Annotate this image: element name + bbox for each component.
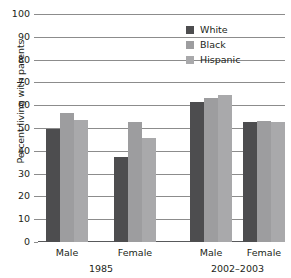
bar-black-female-1 [128,122,142,242]
bar-hispanic-male-0 [74,120,88,242]
bar-hispanic-female-1 [142,138,156,242]
y-axis-tick-mark [34,174,38,175]
plot-area [38,14,285,242]
bar-hispanic-female-3 [271,122,285,242]
bar-white-female-1 [114,157,128,243]
y-axis-tick-label: 90 [0,32,30,42]
y-axis-tick-label: 100 [0,9,30,19]
legend-label: White [200,25,228,35]
y-axis-tick-label: 80 [0,55,30,65]
chart-legend: WhiteBlackHispanic [186,22,240,67]
bar-white-male-2 [190,102,204,242]
y-axis-tick-mark [34,37,38,38]
y-axis-tick-mark [34,105,38,106]
y-axis-tick-mark [34,151,38,152]
y-axis-tick-mark [34,196,38,197]
legend-swatch-icon-white [186,26,194,34]
y-axis-tick-label: 10 [0,214,30,224]
y-axis-tick-mark [34,82,38,83]
y-axis-tick-label: 30 [0,169,30,179]
bar-chart: Percent living with parents 010203040506… [0,0,291,278]
bar-hispanic-male-2 [218,95,232,242]
bar-white-male-0 [46,129,60,242]
y-axis-tick-mark [34,242,38,243]
x-axis-period-label-0: 1985 [56,263,146,274]
x-axis-label-female-1: Female [100,247,170,258]
y-axis-tick-label: 60 [0,100,30,110]
gridline [38,105,285,106]
y-axis-tick-mark [34,219,38,220]
x-axis-label-female-3: Female [229,247,291,258]
gridline [38,82,285,83]
x-axis-period-label-1: 2002–2003 [193,263,283,274]
legend-label: Black [200,40,226,50]
gridline [38,60,285,61]
bar-black-female-3 [257,121,271,242]
y-axis-tick-label: 20 [0,191,30,201]
y-axis-tick-mark [34,60,38,61]
legend-item-black[interactable]: Black [186,37,240,52]
gridline [38,37,285,38]
y-axis-tick-label: 50 [0,123,30,133]
legend-item-hispanic[interactable]: Hispanic [186,52,240,67]
legend-label: Hispanic [200,55,240,65]
y-axis-tick-mark [34,14,38,15]
gridline [38,14,285,15]
y-axis-tick-label: 70 [0,77,30,87]
x-axis-label-male-0: Male [32,247,102,258]
bar-black-male-0 [60,113,74,242]
y-axis-tick-label: 0 [0,237,30,247]
legend-swatch-icon-black [186,41,194,49]
y-axis-tick-label: 40 [0,146,30,156]
legend-swatch-icon-hispanic [186,56,194,64]
bar-black-male-2 [204,98,218,242]
bar-white-female-3 [243,122,257,242]
legend-item-white[interactable]: White [186,22,240,37]
y-axis-tick-mark [34,128,38,129]
